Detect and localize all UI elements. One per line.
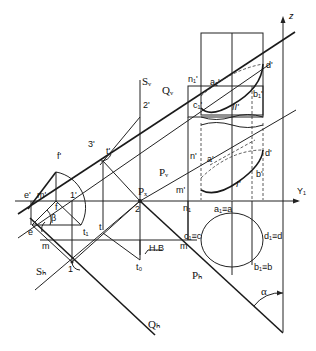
diagram-canvas: z Y₁ Sᵥ Qᵥ Pᵥ Pₓ Sₕ Qₕ Pₕ 2' 2 3' t' f' … [0,0,316,351]
construction-drawing [0,0,316,351]
point-px [138,199,142,203]
e-to-1-line [32,225,72,262]
point-m-prime-left: m' [37,191,46,200]
qh-trace-line [30,218,155,335]
point-a1-a: a₁≡a [214,205,232,214]
point-t-prime: t' [106,147,110,156]
point-n1-prime-top: n₁' [188,75,198,84]
point-t1: t₁ [83,228,89,237]
point-2: 2 [135,205,140,214]
section-I-prime: I' [236,180,240,189]
point-c1-prime: c₁' [193,101,202,110]
px-label: Pₓ [138,186,147,197]
point-b-prime: b' [256,170,263,179]
t-to-t0-line [103,233,140,260]
point-c1-c: c₁≡c [184,232,201,241]
f-diagonal [56,201,81,225]
alpha-arc [254,293,283,306]
point-t: t [99,223,102,232]
point-d-prime-top: d' [266,61,273,70]
point-m-prime-right: m' [176,186,185,195]
y1-axis-label: Y₁ [297,187,306,196]
point-b1-prime: b₁' [253,90,263,99]
sh-label: Sₕ [36,266,46,277]
point-n-prime: n' [190,152,197,161]
point-f-prime: f' [57,152,61,161]
section-II-prime: II' [232,103,239,112]
point-2-prime: 2' [143,101,150,110]
alpha-arrow-icon [277,291,283,296]
qv-label: Qᵥ [162,85,173,96]
pv-trace-line [140,110,296,201]
point-1-prime: 1' [70,191,77,200]
beta-label: β [51,214,56,223]
axis-arrow-icon [293,199,300,204]
point-a1-prime: a₁' [210,78,220,87]
point-e: e [28,228,33,237]
point-d1-d: d₁≡d [264,232,282,241]
qh-label: Qₕ [148,319,160,330]
qv-trace-line [18,32,295,214]
point-3-prime: 3' [88,140,95,149]
sv-label: Sᵥ [142,76,151,87]
point-e-prime: e' [24,191,31,200]
point-1: 1 [68,265,73,274]
alpha-label: α [261,286,267,297]
point-b1-b: b₁≡b [254,263,272,272]
hb-label: H.B [149,244,164,253]
point-n1: n₁ [183,204,191,213]
point-m-left: m [42,242,50,251]
pv-label: Pᵥ [159,167,168,178]
point-d-prime: d' [265,149,272,158]
z-axis-arrow-icon [281,16,286,23]
point-f: f [55,203,58,212]
ph-label: Pₕ [192,270,202,281]
point-m-right: m [180,242,188,251]
z-axis-label: z [289,12,294,21]
point-t0: t₀ [136,263,142,272]
point-a-prime: a' [207,155,214,164]
